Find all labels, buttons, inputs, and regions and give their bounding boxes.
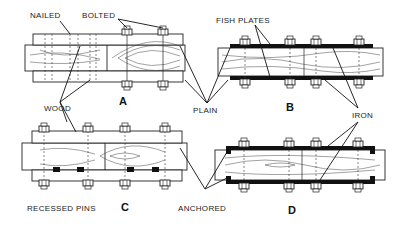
panel-letter-d: D [288, 204, 296, 216]
panel-a [25, 26, 185, 90]
splice-diagram [0, 0, 409, 231]
panel-b [218, 36, 383, 88]
label-recessed-pins: RECESSED PINS [27, 204, 96, 213]
panel-letter-a: A [119, 95, 127, 107]
panel-letter-c: C [121, 201, 129, 213]
label-wood: WOOD [44, 104, 71, 113]
label-bolted: BOLTED [82, 11, 115, 20]
label-fish-plates: FISH PLATES [216, 16, 270, 25]
label-plain: PLAIN [193, 106, 218, 115]
panel-d [215, 138, 385, 192]
label-iron: IRON [352, 111, 373, 120]
label-anchored: ANCHORED [178, 204, 226, 213]
label-nailed: NAILED [30, 11, 61, 20]
panel-letter-b: B [286, 101, 294, 113]
panel-c [22, 123, 187, 189]
